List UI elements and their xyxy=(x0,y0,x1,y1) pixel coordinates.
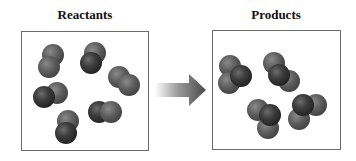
reactants-title: Reactants xyxy=(21,7,149,23)
atom-sphere-icon xyxy=(33,86,55,108)
atom-sphere-icon xyxy=(38,56,60,78)
atom-sphere-icon xyxy=(292,94,314,116)
atom-sphere-icon xyxy=(259,104,281,126)
atom-sphere-icon xyxy=(55,122,77,144)
products-title: Products xyxy=(212,7,340,23)
atom-sphere-icon xyxy=(118,74,140,96)
atom-sphere-icon xyxy=(268,64,290,86)
atom-sphere-icon xyxy=(230,65,252,87)
atom-sphere-icon xyxy=(80,52,102,74)
atom-sphere-icon xyxy=(100,101,122,123)
reaction-arrow-icon xyxy=(155,73,207,107)
